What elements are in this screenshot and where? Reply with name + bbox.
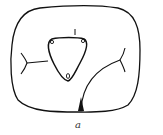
diagram-figure: [0, 0, 163, 135]
bottom-curve: [81, 60, 120, 110]
left-branch: [27, 61, 48, 63]
right-y-junction: [120, 48, 125, 72]
bottom-wedge: [78, 97, 84, 111]
figure-caption: a: [72, 119, 84, 130]
corner-circle-left: [50, 40, 53, 43]
corner-circle-right: [81, 39, 84, 42]
inner-triangle: [48, 38, 86, 82]
left-y-junction: [21, 53, 27, 74]
corner-circle-bottom: [66, 74, 69, 79]
